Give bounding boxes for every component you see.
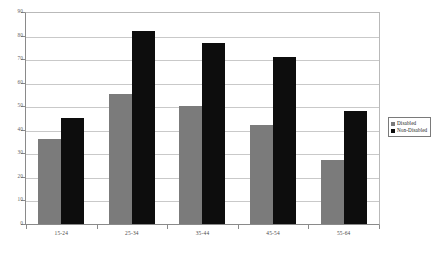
- bar-non-disabled-25-34: [132, 31, 155, 224]
- bar-non-disabled-55-64: [344, 111, 367, 224]
- bars-layer: [26, 12, 379, 224]
- bar-disabled-15-24: [38, 139, 61, 224]
- x-axis-tick-label: 45-54: [245, 231, 301, 236]
- bar-disabled-55-64: [321, 160, 344, 224]
- y-axis-tick-label: 0: [5, 221, 23, 226]
- bar-disabled-35-44: [179, 106, 202, 224]
- y-axis-tick-label: 10: [5, 197, 23, 202]
- x-axis-tick-label: 15-24: [33, 231, 89, 236]
- chart-legend: DisabledNon-Disabled: [388, 117, 431, 137]
- legend-item: Non-Disabled: [391, 127, 427, 134]
- y-axis-tick-label: 30: [5, 150, 23, 155]
- y-axis-tick-label: 80: [5, 33, 23, 38]
- bar-disabled-25-34: [109, 94, 132, 224]
- bar-group: [308, 12, 379, 224]
- legend-item: Disabled: [391, 120, 427, 127]
- y-axis-tick-label: 40: [5, 127, 23, 132]
- x-axis-tick-mark: [167, 225, 168, 229]
- x-axis-tick-mark: [26, 225, 27, 229]
- legend-swatch-icon: [391, 122, 395, 126]
- legend-label: Non-Disabled: [397, 128, 427, 133]
- x-axis-tick-mark: [308, 225, 309, 229]
- bar-disabled-45-54: [250, 125, 273, 224]
- x-axis-tick-mark: [379, 225, 380, 229]
- bar-group: [167, 12, 238, 224]
- x-axis-tick-label: 55-64: [316, 231, 372, 236]
- bar-chart: DisabledNon-Disabled 0102030405060708090…: [0, 0, 446, 260]
- bar-non-disabled-15-24: [61, 118, 84, 224]
- y-axis-tick-label: 20: [5, 174, 23, 179]
- y-axis-tick-label: 50: [5, 103, 23, 108]
- x-axis-tick-mark: [97, 225, 98, 229]
- legend-swatch-icon: [391, 129, 395, 133]
- y-axis-tick-label: 90: [5, 9, 23, 14]
- bar-group: [97, 12, 168, 224]
- legend-label: Disabled: [397, 121, 416, 126]
- bar-group: [238, 12, 309, 224]
- x-axis-tick-label: 35-44: [175, 231, 231, 236]
- x-axis-tick-label: 25-34: [104, 231, 160, 236]
- bar-non-disabled-35-44: [202, 43, 225, 224]
- bar-group: [26, 12, 97, 224]
- y-axis-tick-label: 60: [5, 80, 23, 85]
- x-axis-tick-mark: [238, 225, 239, 229]
- y-axis-tick-label: 70: [5, 56, 23, 61]
- bar-non-disabled-45-54: [273, 57, 296, 224]
